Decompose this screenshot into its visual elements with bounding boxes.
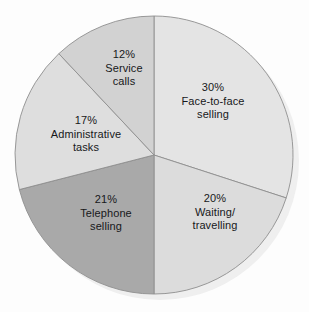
pie-chart: 30%Face-to-faceselling20%Waiting/travell… bbox=[0, 0, 309, 312]
pie-chart-canvas bbox=[0, 0, 309, 312]
pie-slices-group bbox=[15, 16, 293, 294]
